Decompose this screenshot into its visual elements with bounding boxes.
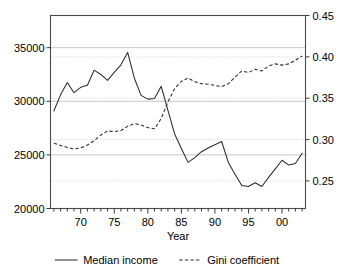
x-tick-label: 00 bbox=[276, 216, 288, 228]
x-axis-title: Year bbox=[167, 230, 190, 242]
right-tick-label: 0.30 bbox=[313, 134, 334, 146]
x-tick-label: 95 bbox=[242, 216, 254, 228]
x-axis-ticks: 70758085909500 bbox=[54, 209, 302, 228]
x-tick-label: 90 bbox=[209, 216, 221, 228]
dual-axis-line-chart: 20000250003000035000 0.250.300.350.400.4… bbox=[0, 0, 342, 277]
left-tick-label: 25000 bbox=[14, 149, 45, 161]
series-paths-group bbox=[54, 52, 302, 186]
right-tick-label: 0.40 bbox=[313, 51, 334, 63]
right-axis-ticks: 0.250.300.350.400.45 bbox=[306, 10, 334, 187]
right-tick-label: 0.45 bbox=[313, 10, 334, 22]
legend-label-gini-coefficient: Gini coefficient bbox=[207, 254, 279, 266]
chart-figure: 20000250003000035000 0.250.300.350.400.4… bbox=[0, 0, 342, 277]
series-line-median-income bbox=[54, 52, 302, 186]
left-axis-ticks: 20000250003000035000 bbox=[14, 42, 51, 215]
legend-label-median-income: Median income bbox=[83, 254, 158, 266]
series-line-gini-coefficient bbox=[54, 56, 302, 149]
right-tick-label: 0.35 bbox=[313, 92, 334, 104]
x-tick-label: 75 bbox=[108, 216, 120, 228]
x-tick-label: 85 bbox=[175, 216, 187, 228]
right-tick-label: 0.25 bbox=[313, 175, 334, 187]
chart-legend: Median incomeGini coefficient bbox=[55, 254, 279, 266]
left-tick-label: 30000 bbox=[14, 95, 45, 107]
left-tick-label: 35000 bbox=[14, 42, 45, 54]
left-tick-label: 20000 bbox=[14, 203, 45, 215]
axis-titles-group: Year bbox=[167, 230, 190, 242]
x-tick-label: 70 bbox=[75, 216, 87, 228]
x-tick-label: 80 bbox=[142, 216, 154, 228]
